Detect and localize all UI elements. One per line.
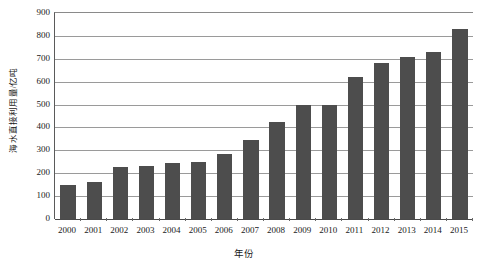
x-tick-label: 2015 [443, 224, 475, 236]
y-tick-label: 500 [20, 99, 50, 108]
bar [191, 162, 206, 219]
bar [322, 105, 337, 219]
x-tick-mark [132, 218, 133, 221]
x-axis-title: 年份 [0, 248, 488, 260]
x-tick-mark [106, 218, 107, 221]
y-tick-label: 600 [20, 76, 50, 85]
y-tick-label: 700 [20, 53, 50, 62]
bar [374, 63, 389, 219]
x-tick-mark [446, 218, 447, 221]
y-axis-tick-labels: 0100200300400500600700800900 [20, 12, 50, 218]
bar [87, 182, 102, 219]
bar [165, 163, 180, 219]
x-tick-mark [185, 218, 186, 221]
x-axis-tick-marks [54, 218, 472, 222]
y-tick-label: 300 [20, 145, 50, 154]
bar [243, 140, 258, 219]
x-tick-mark [289, 218, 290, 221]
y-tick-label: 0 [20, 214, 50, 223]
y-tick-label: 200 [20, 168, 50, 177]
y-tick-label: 900 [20, 8, 50, 17]
x-tick-mark [420, 218, 421, 221]
x-tick-mark [472, 218, 473, 221]
bar-chart: 海水直接利用量/亿吨 0100200300400500600700800900 … [0, 0, 488, 278]
y-axis-title: 海水直接利用量/亿吨 [8, 40, 18, 180]
bar [217, 154, 232, 219]
bar [296, 105, 311, 219]
bar [452, 29, 467, 219]
x-tick-mark [263, 218, 264, 221]
y-tick-label: 400 [20, 122, 50, 131]
x-tick-mark [394, 218, 395, 221]
bars-layer [55, 13, 473, 219]
plot-area [54, 12, 473, 219]
bar [348, 77, 363, 219]
x-tick-mark [159, 218, 160, 221]
bar [269, 122, 284, 219]
bar [139, 166, 154, 219]
bar [400, 57, 415, 219]
y-tick-label: 100 [20, 191, 50, 200]
x-tick-mark [368, 218, 369, 221]
x-tick-mark [80, 218, 81, 221]
y-tick-label: 800 [20, 30, 50, 39]
x-tick-mark [315, 218, 316, 221]
bar [113, 167, 128, 219]
x-axis-tick-labels: 2000200120022003200420052006200720082009… [54, 224, 472, 238]
x-tick-mark [237, 218, 238, 221]
bar [426, 52, 441, 219]
bar [60, 185, 75, 219]
x-tick-mark [341, 218, 342, 221]
x-tick-mark [211, 218, 212, 221]
